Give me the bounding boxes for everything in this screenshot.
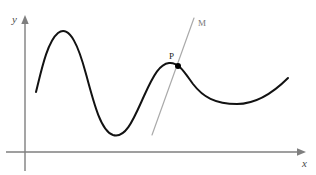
tangent-line-label: M [198, 19, 206, 28]
x-axis-arrowhead [297, 148, 306, 155]
graph-svg [0, 0, 316, 175]
point-P-marker [175, 63, 181, 69]
axes-group [6, 15, 306, 171]
y-axis-arrowhead [21, 15, 28, 24]
point-P-label: P [169, 52, 174, 61]
figure-canvas: y x P M [0, 0, 316, 175]
function-curve [36, 31, 288, 135]
x-axis-label: x [302, 158, 307, 169]
y-axis-label: y [12, 14, 17, 25]
